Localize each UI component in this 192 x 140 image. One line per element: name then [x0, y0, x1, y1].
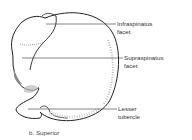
label-infraspinatus-line1: Infraspinatus	[117, 20, 152, 28]
bicipital-groove-top	[42, 13, 56, 16]
label-supraspinatus-line1: Supraspinatus	[124, 54, 164, 62]
left-notch-shade	[14, 70, 22, 84]
lesser-tubercle-outline	[40, 106, 68, 118]
label-supraspinatus-line2: facet	[124, 62, 164, 70]
label-infraspinatus-facet: Infraspinatus facet	[117, 20, 152, 35]
label-supraspinatus-facet: Supraspinatus facet	[124, 54, 164, 69]
label-infraspinatus-line2: facet	[117, 28, 152, 36]
rim-shade	[104, 40, 113, 104]
figure-caption: b. Superior	[29, 129, 59, 136]
label-lesser-tubercle-line2: tubercle	[118, 113, 140, 121]
greater-tubercle-outline	[11, 16, 45, 118]
upper-hatch	[20, 42, 44, 45]
label-lesser-tubercle-line1: Lesser	[118, 105, 140, 113]
humerus-superior-drawing	[0, 0, 192, 140]
humeral-head-outline	[40, 13, 119, 121]
label-lesser-tubercle: Lesser tubercle	[118, 105, 140, 120]
lesser-tubercle-shade	[24, 85, 38, 93]
